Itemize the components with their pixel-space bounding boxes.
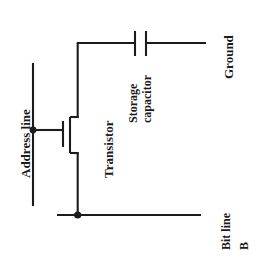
bit-line-b-label: B xyxy=(238,242,250,250)
storage-capacitor-label-line2: capacitor xyxy=(141,75,153,123)
ground-label: Ground xyxy=(222,35,235,79)
transistor-label: Transistor xyxy=(102,120,115,178)
storage-capacitor-label-line1: Storage xyxy=(127,84,139,123)
address-line-label: Address line xyxy=(19,109,32,178)
dram-cell-diagram: Address line Transistor Storage capacito… xyxy=(0,0,260,261)
bit-line-junction-dot xyxy=(74,211,81,218)
bit-line-label: Bit line xyxy=(220,213,232,250)
